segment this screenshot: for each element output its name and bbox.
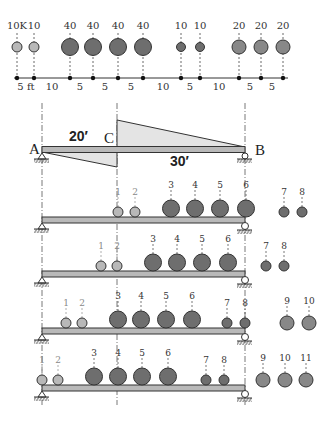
wheel-load-icon (240, 318, 250, 328)
truck-axle: 10 (28, 20, 41, 80)
wheel-number-label: 5 (139, 348, 145, 358)
wheel: 11 (299, 353, 313, 387)
wheel: 1 (113, 187, 123, 217)
wheel: 5 (194, 234, 211, 271)
axle-point-icon (116, 76, 120, 80)
axle-load-label: 10K (7, 20, 28, 31)
axle-load-label: 40 (112, 20, 125, 31)
wheel-number-label: 10 (279, 353, 291, 363)
axle-point-icon (91, 76, 95, 80)
wheel-number-label: 6 (225, 234, 231, 244)
wheel-load-icon (212, 200, 229, 217)
axle-point-icon (15, 76, 19, 80)
influence-line-diagram: 10K10404040401010202020 5 ft105551051055… (0, 0, 335, 431)
truck-axle: 20 (276, 20, 290, 80)
axle-load-label: 20 (277, 20, 290, 31)
wheel-number-label: 8 (281, 241, 287, 251)
wheel: 3 (86, 348, 103, 385)
axle-spacing-label: 10 (157, 81, 170, 92)
wheel-number-label: 1 (39, 355, 45, 365)
wheel: 8 (219, 355, 229, 385)
truck-axle: 40 (135, 20, 152, 80)
wheel: 3 (145, 234, 162, 271)
truck-axle-diagram: 10K10404040401010202020 5 ft105551051055 (7, 20, 290, 92)
label-span-ac: 20′ (69, 128, 89, 144)
wheel-number-label: 2 (114, 241, 120, 251)
roller-support-b (237, 391, 252, 403)
axle-point-icon (281, 76, 285, 80)
wheel-load-icon (232, 40, 246, 54)
wheel-number-label: 2 (55, 355, 61, 365)
load-cases: 1234567812345678123456789101234567891011 (34, 180, 316, 402)
wheel-number-label: 6 (165, 348, 171, 358)
axle-load-label: 20 (233, 20, 246, 31)
wheel-load-icon (279, 261, 289, 271)
wheel-load-icon (110, 311, 127, 328)
wheel-number-label: 11 (300, 353, 311, 363)
axle-point-icon (259, 76, 263, 80)
wheel-load-icon (62, 39, 79, 56)
wheel-number-label: 4 (138, 291, 144, 301)
wheel-number-label: 8 (299, 187, 305, 197)
wheel-load-icon (256, 373, 270, 387)
truck-axle: 10 (175, 20, 188, 80)
wheel-number-label: 7 (224, 298, 230, 308)
wheel-load-icon (61, 318, 71, 328)
label-span-cb: 30′ (170, 153, 190, 169)
wheel-load-icon (238, 200, 255, 217)
wheel: 6 (160, 348, 177, 385)
wheel-load-icon (196, 43, 205, 52)
axle-spacing-label: 5 (77, 81, 83, 92)
beam (42, 328, 245, 334)
wheel-load-icon (113, 207, 123, 217)
wheel-load-icon (130, 207, 140, 217)
wheel-load-icon (110, 39, 127, 56)
wheel: 8 (279, 241, 289, 271)
wheel: 6 (238, 180, 255, 217)
wheel-load-icon (134, 368, 151, 385)
wheel: 9 (256, 353, 270, 387)
wheel-number-label: 1 (63, 298, 69, 308)
wheel-number-label: 9 (260, 353, 266, 363)
wheel-load-icon (77, 318, 87, 328)
wheel-number-label: 6 (243, 180, 249, 190)
wheel: 4 (169, 234, 186, 271)
axle-point-icon (68, 76, 72, 80)
wheel-load-icon (163, 200, 180, 217)
axle-point-icon (32, 76, 36, 80)
axle-point-icon (141, 76, 145, 80)
wheel-load-icon (261, 261, 271, 271)
wheel: 1 (37, 355, 47, 385)
truck-axle: 40 (85, 20, 102, 80)
wheel-number-label: 2 (132, 187, 138, 197)
wheel-load-icon (276, 40, 290, 54)
truck-axle: 40 (62, 20, 79, 80)
pin-support-a (34, 391, 49, 401)
wheel-load-icon (133, 311, 150, 328)
wheel: 7 (279, 187, 289, 217)
wheel-load-icon (86, 368, 103, 385)
label-point-b: B (255, 142, 265, 158)
wheel-load-icon (177, 43, 186, 52)
wheel: 7 (222, 298, 232, 328)
influence-positive-region (117, 120, 245, 147)
wheel-number-label: 6 (189, 291, 195, 301)
wheel-load-icon (302, 316, 316, 330)
load-case-3: 12345678910 (34, 291, 316, 345)
wheel: 1 (61, 298, 71, 328)
wheel: 8 (297, 187, 307, 217)
wheel-load-icon (29, 42, 39, 52)
wheel-load-icon (85, 39, 102, 56)
influence-negative-region (42, 152, 117, 167)
wheel-number-label: 8 (242, 298, 248, 308)
beam (42, 385, 245, 391)
wheel: 1 (96, 241, 106, 271)
beam (42, 217, 245, 223)
wheel-number-label: 1 (115, 187, 121, 197)
wheel: 5 (134, 348, 151, 385)
axle-spacing-label: 5 (247, 81, 253, 92)
wheel: 10 (302, 296, 316, 330)
wheel-load-icon (184, 311, 201, 328)
roller-support-b (237, 153, 252, 163)
wheel-load-icon (194, 254, 211, 271)
